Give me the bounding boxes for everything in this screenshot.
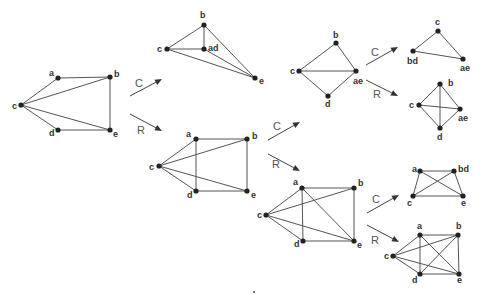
vertex-label-b: b xyxy=(114,69,120,79)
arrowhead-icon xyxy=(391,195,399,201)
edge-a-b xyxy=(58,77,110,78)
edge-b-ae xyxy=(336,43,356,71)
stray-mark xyxy=(253,291,255,293)
edge-b-c xyxy=(299,43,336,71)
vertex-e xyxy=(244,188,249,193)
vertex-b xyxy=(351,185,356,190)
vertex-label-e: e xyxy=(251,190,256,200)
graph-g-c-ad: bcade xyxy=(157,10,264,86)
vertex-label-e: e xyxy=(259,76,264,86)
graph-r3: bcaed xyxy=(409,78,468,142)
vertex-label-b: b xyxy=(200,10,206,20)
graphs-layer: abcdebcadeabcdebcaedcbdaebcaedabcdeabdce… xyxy=(12,10,470,285)
contract-arrow: C xyxy=(268,120,300,140)
vertex-label-a: a xyxy=(412,164,418,174)
vertex-label-d: d xyxy=(325,99,331,109)
vertex-label-c: c xyxy=(157,44,162,54)
edge-bd-ae xyxy=(413,51,463,59)
edge-a-c xyxy=(159,139,196,166)
vertex-label-c: c xyxy=(407,198,412,208)
vertex-label-c: c xyxy=(290,66,295,76)
edge-d-ae xyxy=(440,109,460,128)
vertex-label-b: b xyxy=(448,78,454,88)
edge-a-c xyxy=(266,188,302,215)
vertex-b xyxy=(201,22,206,27)
vertex-a xyxy=(55,75,60,80)
vertex-label-c: c xyxy=(409,100,414,110)
vertex-label-b: b xyxy=(333,30,339,40)
edge-c-b xyxy=(159,139,247,166)
edge-c-e xyxy=(159,166,247,191)
vertex-d xyxy=(437,125,442,130)
vertex-label-e: e xyxy=(357,240,362,250)
graph-c4: abdce xyxy=(407,164,469,208)
vertex-label-b: b xyxy=(252,131,258,141)
vertex-label-c: c xyxy=(384,251,389,261)
edge-c-d xyxy=(393,256,420,274)
edge-bd-e xyxy=(454,171,463,196)
vertex-label-d: d xyxy=(412,275,418,285)
operation-label: R xyxy=(272,158,280,170)
vertex-label-d: d xyxy=(49,128,55,138)
operation-label: C xyxy=(135,77,143,89)
vertex-d xyxy=(300,238,305,243)
edge-c-d xyxy=(299,71,328,96)
graph-g: abcde xyxy=(12,68,120,139)
edge-d-ae xyxy=(328,71,356,96)
vertex-label-a: a xyxy=(293,177,299,187)
edge-a-e xyxy=(420,171,463,196)
vertex-label-e: e xyxy=(461,198,466,208)
contract-arrow: C xyxy=(366,46,398,65)
graph-c2: bcaed xyxy=(290,30,363,109)
edge-a-c xyxy=(21,78,58,105)
remove-arrow: R xyxy=(130,114,162,136)
vertex-b xyxy=(333,40,338,45)
operation-label: R xyxy=(137,124,145,136)
vertex-bd xyxy=(410,48,415,53)
vertex-a xyxy=(417,168,422,173)
vertex-label-a: a xyxy=(417,221,423,231)
deletion-contraction-diagram: abcdebcadeabcdebcaedcbdaebcaedabcdeabdce… xyxy=(0,0,481,294)
graph-c3: cbdae xyxy=(407,17,470,73)
vertex-label-c: c xyxy=(149,162,154,172)
vertex-c xyxy=(390,253,395,258)
vertex-e xyxy=(351,238,356,243)
vertex-d xyxy=(55,127,60,132)
edge-c-d xyxy=(21,105,58,130)
edge-c-b xyxy=(266,188,354,215)
remove-arrow: R xyxy=(268,154,300,171)
vertex-b xyxy=(455,232,460,237)
edge-a-d xyxy=(302,188,303,241)
vertex-a xyxy=(417,232,422,237)
vertex-label-d: d xyxy=(187,190,193,200)
vertex-label-ae: ae xyxy=(353,76,363,86)
vertex-ae xyxy=(353,68,358,73)
operation-label: C xyxy=(372,193,380,205)
vertex-ad xyxy=(201,46,206,51)
vertex-c xyxy=(416,102,421,107)
vertex-label-ae: ae xyxy=(458,113,468,123)
edge-c-ae xyxy=(438,31,463,59)
vertex-label-d: d xyxy=(437,132,443,142)
vertex-label-a: a xyxy=(186,129,192,139)
edge-b-c xyxy=(167,25,204,49)
vertex-b xyxy=(107,74,112,79)
edge-c-d xyxy=(159,166,196,191)
edge-c-d xyxy=(266,215,303,241)
vertex-a xyxy=(299,185,304,190)
graph-g-r-ad: abcde xyxy=(149,129,258,200)
vertex-label-bd: bd xyxy=(458,164,469,174)
edge-c-b xyxy=(21,77,110,105)
vertex-c xyxy=(296,68,301,73)
vertex-bd xyxy=(451,168,456,173)
edge-c-e xyxy=(21,105,110,130)
vertex-ae xyxy=(457,106,462,111)
vertex-label-e: e xyxy=(113,129,118,139)
vertex-e xyxy=(107,127,112,132)
remove-arrow: R xyxy=(367,225,399,246)
operation-label: R xyxy=(373,88,381,100)
vertex-label-bd: bd xyxy=(407,56,418,66)
arrowhead-icon xyxy=(390,47,398,53)
vertex-d xyxy=(325,93,330,98)
graph-r2: abcde xyxy=(257,177,364,250)
